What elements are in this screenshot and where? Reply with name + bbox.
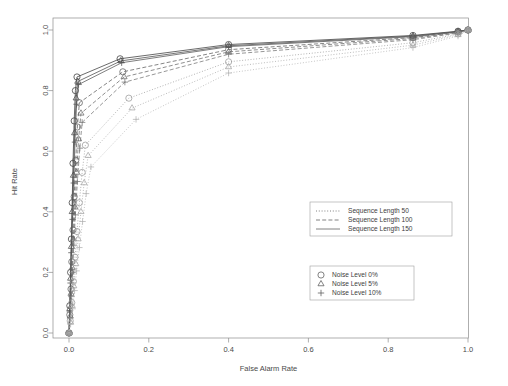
x-tick-label: 0.6 bbox=[303, 345, 313, 354]
x-tick-label: 1.0 bbox=[463, 345, 473, 354]
y-axis-title: Hit Rate bbox=[10, 168, 19, 195]
legends: Sequence Length 50Sequence Length 100Seq… bbox=[310, 202, 452, 300]
y-tick-label: 0.8 bbox=[41, 85, 50, 95]
y-tick-label: 1.0 bbox=[41, 25, 50, 35]
data-point-marker-triangle bbox=[121, 73, 127, 78]
roc-chart-figure: 0.00.20.40.60.81.00.00.20.40.60.81.0 Fal… bbox=[0, 0, 508, 386]
y-tick-label: 0.4 bbox=[41, 207, 50, 217]
y-tick-label: 0.0 bbox=[41, 328, 50, 338]
legend-label-noise-level: Noise Level 5% bbox=[332, 280, 378, 287]
y-tick-label: 0.6 bbox=[41, 146, 50, 156]
data-point-marker-plus bbox=[83, 190, 89, 196]
y-tick-label: 0.2 bbox=[41, 267, 50, 277]
legend-label-noise-level: Noise Level 10% bbox=[332, 289, 382, 296]
roc-chart-svg: 0.00.20.40.60.81.00.00.20.40.60.81.0 Fal… bbox=[0, 0, 508, 386]
axis-ticks: 0.00.20.40.60.81.00.00.20.40.60.81.0 bbox=[41, 25, 474, 354]
x-tick-label: 0.4 bbox=[223, 345, 233, 354]
legend-label-noise-level: Noise Level 0% bbox=[332, 271, 378, 278]
legend-label-sequence-length: Sequence Length 100 bbox=[348, 216, 413, 224]
legend-label-sequence-length: Sequence Length 150 bbox=[348, 225, 413, 233]
data-point-marker-plus bbox=[74, 178, 80, 184]
data-point-marker-plus bbox=[225, 70, 231, 76]
data-point-marker-plus bbox=[72, 139, 78, 145]
x-tick-label: 0.8 bbox=[383, 345, 393, 354]
data-point-marker-plus bbox=[88, 164, 94, 170]
data-point-marker-triangle bbox=[129, 105, 135, 110]
data-point-marker-plus bbox=[79, 218, 85, 224]
data-point-marker-circle bbox=[76, 200, 82, 206]
data-point-marker-circle bbox=[120, 69, 126, 75]
x-tick-label: 0.2 bbox=[144, 345, 154, 354]
data-point-marker-plus bbox=[76, 244, 82, 250]
x-axis-title: False Alarm Rate bbox=[240, 364, 298, 373]
legend-label-sequence-length: Sequence Length 50 bbox=[348, 207, 409, 215]
data-point-marker-plus bbox=[122, 79, 128, 85]
x-tick-label: 0.0 bbox=[64, 345, 74, 354]
